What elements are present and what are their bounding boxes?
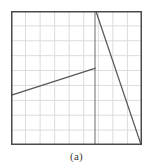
plot-svg [11, 11, 142, 145]
plot-background [11, 11, 142, 145]
plot-area [11, 11, 142, 145]
figure-caption: (a) [0, 150, 153, 163]
figure-panel-a: (a) [0, 0, 153, 168]
